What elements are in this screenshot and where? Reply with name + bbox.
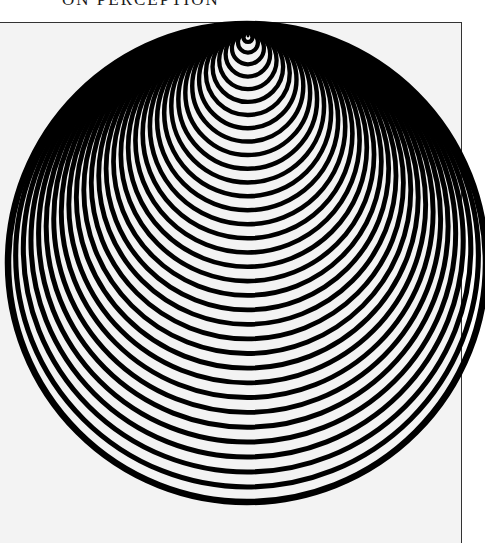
apex-dot (247, 35, 250, 38)
ring (244, 33, 253, 42)
